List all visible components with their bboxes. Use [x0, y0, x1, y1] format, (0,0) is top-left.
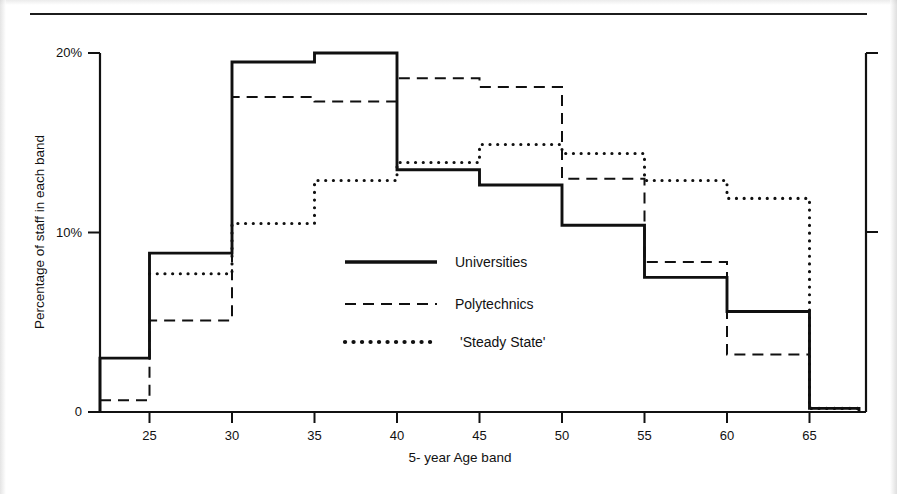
x-tick-label-55: 55 — [637, 428, 651, 443]
page-canvas: 010%20% 253035404550556065 Percentage of… — [0, 0, 897, 494]
chart-figure: 010%20% 253035404550556065 Percentage of… — [0, 0, 897, 494]
x-tick-label-40: 40 — [390, 428, 404, 443]
x-tick-group: 253035404550556065 — [142, 412, 816, 443]
legend-item-steady-state: 'Steady State' — [345, 334, 546, 350]
y-tick-label-20%: 20% — [56, 45, 82, 60]
right-axis — [866, 53, 878, 412]
legend-label-polytechnics: Polytechnics — [455, 296, 534, 312]
y-tick-group: 010%20% — [56, 45, 100, 419]
series-group — [100, 53, 859, 412]
x-tick-label-35: 35 — [307, 428, 321, 443]
x-tick-label-60: 60 — [720, 428, 734, 443]
series-line-universities — [100, 53, 859, 412]
y-axis: 010%20% — [56, 45, 100, 419]
x-tick-label-50: 50 — [555, 428, 569, 443]
y-axis-title: Percentage of staff in each band — [32, 135, 47, 329]
chart-svg: 010%20% 253035404550556065 Percentage of… — [0, 0, 897, 494]
series-line-polytechnics — [100, 78, 810, 412]
legend-label-universities: Universities — [455, 254, 527, 270]
x-tick-label-30: 30 — [225, 428, 239, 443]
x-axis: 253035404550556065 — [88, 412, 866, 443]
x-tick-label-45: 45 — [472, 428, 486, 443]
legend-item-universities: Universities — [345, 254, 527, 270]
legend-label-steady-state: 'Steady State' — [460, 334, 546, 350]
y-tick-label-0: 0 — [75, 404, 82, 419]
chart-legend: Universities Polytechnics 'Steady State' — [345, 254, 546, 350]
x-axis-title: 5- year Age band — [409, 450, 512, 465]
x-tick-label-65: 65 — [802, 428, 816, 443]
y-tick-label-10%: 10% — [56, 225, 82, 240]
x-tick-label-25: 25 — [142, 428, 156, 443]
legend-item-polytechnics: Polytechnics — [345, 296, 534, 312]
